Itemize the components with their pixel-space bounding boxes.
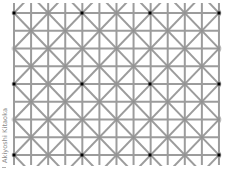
junction-node	[130, 63, 136, 69]
junction-node	[79, 116, 85, 122]
junction-node	[199, 63, 205, 69]
junction-node	[216, 116, 222, 122]
junction-node	[62, 134, 68, 140]
junction-node	[62, 28, 68, 34]
junction-node	[182, 10, 188, 16]
black-dot	[13, 154, 16, 157]
corner-mark	[2, 167, 6, 168]
junction-node	[113, 10, 119, 16]
junction-node	[79, 45, 85, 51]
illusion-canvas	[0, 0, 227, 171]
junction-node	[45, 81, 51, 87]
junction-node	[28, 99, 34, 105]
junction-node	[130, 28, 136, 34]
junction-node	[28, 134, 34, 140]
junction-node	[182, 152, 188, 158]
black-dot	[149, 12, 152, 15]
junction-node	[147, 116, 153, 122]
junction-node	[11, 116, 17, 122]
junction-node	[165, 99, 171, 105]
junction-node	[182, 45, 188, 51]
junction-node	[96, 99, 102, 105]
black-dot	[218, 12, 221, 15]
junction-node	[182, 81, 188, 87]
junction-node	[199, 28, 205, 34]
black-dot	[218, 83, 221, 86]
junction-node	[165, 28, 171, 34]
junction-node	[216, 45, 222, 51]
junction-node	[96, 63, 102, 69]
junction-node	[96, 28, 102, 34]
junction-node	[45, 152, 51, 158]
junction-node	[113, 152, 119, 158]
junction-node	[11, 45, 17, 51]
junction-node	[130, 99, 136, 105]
author-credit: Akiyoshi Kitaoka	[1, 108, 9, 163]
black-dot	[218, 154, 221, 157]
junction-node	[62, 63, 68, 69]
black-dot	[81, 12, 84, 15]
junction-node	[199, 99, 205, 105]
junction-node	[96, 134, 102, 140]
junction-node	[62, 99, 68, 105]
junction-node	[45, 45, 51, 51]
black-dot	[13, 12, 16, 15]
junction-node	[45, 116, 51, 122]
junction-node	[28, 63, 34, 69]
junction-node	[130, 134, 136, 140]
black-dot	[149, 83, 152, 86]
junction-node	[182, 116, 188, 122]
junction-node	[113, 45, 119, 51]
black-dot	[81, 154, 84, 157]
black-dot	[149, 154, 152, 157]
junction-node	[165, 134, 171, 140]
black-dot	[13, 83, 16, 86]
black-dot	[81, 83, 84, 86]
junction-node	[199, 134, 205, 140]
junction-node	[165, 63, 171, 69]
junction-node	[45, 10, 51, 16]
junction-node	[113, 81, 119, 87]
junction-node	[28, 28, 34, 34]
junction-node	[147, 45, 153, 51]
junction-node	[113, 116, 119, 122]
